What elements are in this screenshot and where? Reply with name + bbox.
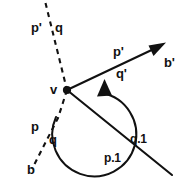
dashed-line-upper-segment	[46, 3, 68, 90]
arrowhead-b-prime-icon	[149, 43, 167, 57]
arrowhead-angle-arc-icon	[97, 79, 112, 97]
label-lower-left-q: q	[49, 133, 57, 146]
label-upper-ray-q-prime: q'	[116, 67, 127, 80]
label-top-left-q: q	[55, 21, 63, 34]
label-b: b	[27, 163, 35, 176]
label-p1: p.1	[104, 152, 121, 164]
label-lower-left-p: p	[31, 120, 39, 133]
figure-canvas	[0, 0, 184, 184]
geometry-figure: p' q p' q' b' v p q b q.1 p.1	[0, 0, 184, 184]
label-upper-ray-p-prime: p'	[113, 45, 124, 58]
label-vertex-v: v	[50, 83, 57, 96]
label-top-left-p-prime: p'	[31, 21, 42, 34]
vertex-dot	[63, 86, 71, 94]
label-b-prime: b'	[164, 56, 175, 69]
label-q1: q.1	[130, 133, 147, 145]
